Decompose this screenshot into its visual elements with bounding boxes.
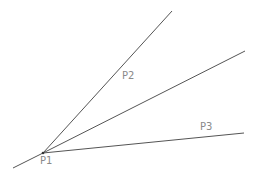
ray-lower [43,133,244,153]
label-p1: P1 [40,155,52,166]
diagram-canvas: P1 P2 P3 [0,0,257,176]
ray-bisector [43,51,245,153]
label-p3: P3 [200,121,212,132]
ray-extension [13,153,43,168]
label-p2: P2 [122,70,134,81]
vertex-point-p1 [42,152,45,155]
ray-upper [43,11,172,153]
